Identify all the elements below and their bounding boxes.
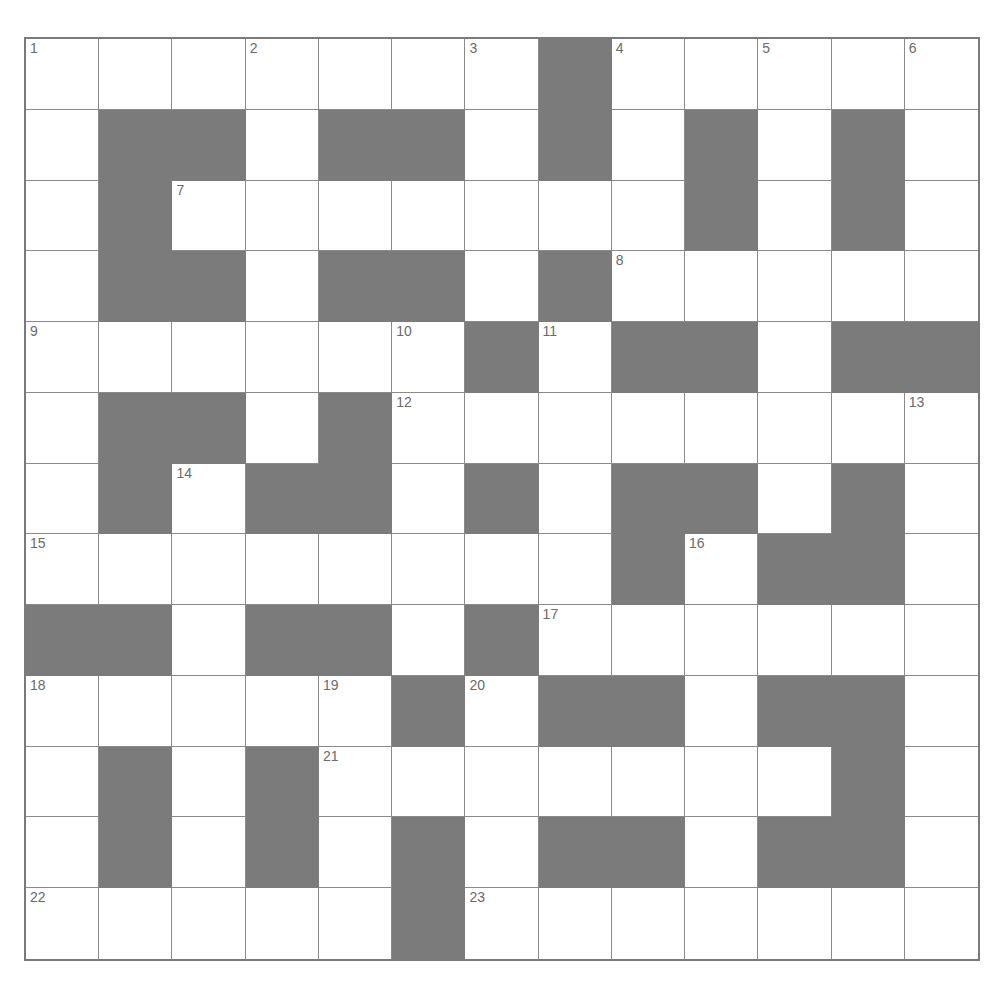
answer-cell[interactable]: 9 [26, 322, 99, 393]
answer-cell[interactable] [685, 39, 758, 110]
answer-cell[interactable] [319, 817, 392, 888]
answer-cell[interactable]: 16 [685, 534, 758, 605]
answer-cell[interactable] [26, 747, 99, 818]
answer-cell[interactable] [465, 393, 538, 464]
answer-cell[interactable]: 8 [612, 251, 685, 322]
answer-cell[interactable]: 20 [465, 676, 538, 747]
answer-cell[interactable] [685, 605, 758, 676]
answer-cell[interactable] [832, 393, 905, 464]
answer-cell[interactable] [392, 747, 465, 818]
answer-cell[interactable]: 21 [319, 747, 392, 818]
answer-cell[interactable] [905, 110, 978, 181]
answer-cell[interactable] [172, 39, 245, 110]
answer-cell[interactable] [539, 747, 612, 818]
answer-cell[interactable] [758, 181, 831, 252]
answer-cell[interactable] [26, 464, 99, 535]
answer-cell[interactable] [832, 39, 905, 110]
answer-cell[interactable] [905, 534, 978, 605]
answer-cell[interactable] [612, 605, 685, 676]
answer-cell[interactable] [539, 393, 612, 464]
answer-cell[interactable] [758, 605, 831, 676]
answer-cell[interactable] [26, 393, 99, 464]
answer-cell[interactable] [172, 534, 245, 605]
answer-cell[interactable] [758, 322, 831, 393]
answer-cell[interactable] [246, 676, 319, 747]
answer-cell[interactable] [319, 181, 392, 252]
answer-cell[interactable] [99, 534, 172, 605]
answer-cell[interactable] [246, 888, 319, 959]
answer-cell[interactable] [905, 464, 978, 535]
answer-cell[interactable]: 10 [392, 322, 465, 393]
answer-cell[interactable] [758, 393, 831, 464]
answer-cell[interactable] [612, 747, 685, 818]
answer-cell[interactable] [758, 110, 831, 181]
answer-cell[interactable]: 22 [26, 888, 99, 959]
answer-cell[interactable]: 15 [26, 534, 99, 605]
answer-cell[interactable] [612, 393, 685, 464]
answer-cell[interactable] [99, 39, 172, 110]
answer-cell[interactable] [539, 888, 612, 959]
answer-cell[interactable]: 19 [319, 676, 392, 747]
answer-cell[interactable]: 18 [26, 676, 99, 747]
answer-cell[interactable] [685, 251, 758, 322]
answer-cell[interactable] [172, 322, 245, 393]
answer-cell[interactable]: 12 [392, 393, 465, 464]
answer-cell[interactable] [319, 39, 392, 110]
answer-cell[interactable] [905, 676, 978, 747]
answer-cell[interactable]: 4 [612, 39, 685, 110]
answer-cell[interactable] [246, 393, 319, 464]
answer-cell[interactable] [758, 747, 831, 818]
answer-cell[interactable] [172, 676, 245, 747]
answer-cell[interactable] [539, 181, 612, 252]
answer-cell[interactable] [465, 747, 538, 818]
answer-cell[interactable] [26, 181, 99, 252]
answer-cell[interactable] [905, 747, 978, 818]
answer-cell[interactable] [685, 747, 758, 818]
answer-cell[interactable]: 3 [465, 39, 538, 110]
answer-cell[interactable] [465, 817, 538, 888]
answer-cell[interactable] [612, 181, 685, 252]
answer-cell[interactable] [392, 534, 465, 605]
answer-cell[interactable] [319, 322, 392, 393]
answer-cell[interactable] [832, 888, 905, 959]
answer-cell[interactable] [612, 888, 685, 959]
answer-cell[interactable] [685, 393, 758, 464]
answer-cell[interactable]: 7 [172, 181, 245, 252]
answer-cell[interactable] [905, 181, 978, 252]
answer-cell[interactable] [319, 888, 392, 959]
answer-cell[interactable] [685, 817, 758, 888]
answer-cell[interactable] [392, 181, 465, 252]
answer-cell[interactable]: 11 [539, 322, 612, 393]
answer-cell[interactable] [905, 251, 978, 322]
answer-cell[interactable] [758, 888, 831, 959]
answer-cell[interactable] [539, 464, 612, 535]
answer-cell[interactable] [26, 110, 99, 181]
answer-cell[interactable] [26, 817, 99, 888]
answer-cell[interactable] [758, 251, 831, 322]
answer-cell[interactable] [905, 605, 978, 676]
answer-cell[interactable] [685, 676, 758, 747]
answer-cell[interactable] [319, 534, 392, 605]
answer-cell[interactable] [246, 110, 319, 181]
answer-cell[interactable] [905, 817, 978, 888]
answer-cell[interactable] [685, 888, 758, 959]
answer-cell[interactable] [832, 251, 905, 322]
answer-cell[interactable]: 6 [905, 39, 978, 110]
answer-cell[interactable] [99, 888, 172, 959]
answer-cell[interactable] [246, 251, 319, 322]
answer-cell[interactable] [392, 39, 465, 110]
answer-cell[interactable]: 14 [172, 464, 245, 535]
answer-cell[interactable]: 5 [758, 39, 831, 110]
answer-cell[interactable] [172, 605, 245, 676]
answer-cell[interactable]: 1 [26, 39, 99, 110]
answer-cell[interactable] [246, 181, 319, 252]
answer-cell[interactable] [539, 534, 612, 605]
answer-cell[interactable] [905, 888, 978, 959]
answer-cell[interactable] [465, 181, 538, 252]
answer-cell[interactable] [465, 110, 538, 181]
answer-cell[interactable]: 23 [465, 888, 538, 959]
answer-cell[interactable] [172, 888, 245, 959]
answer-cell[interactable]: 17 [539, 605, 612, 676]
answer-cell[interactable] [172, 817, 245, 888]
answer-cell[interactable] [172, 747, 245, 818]
